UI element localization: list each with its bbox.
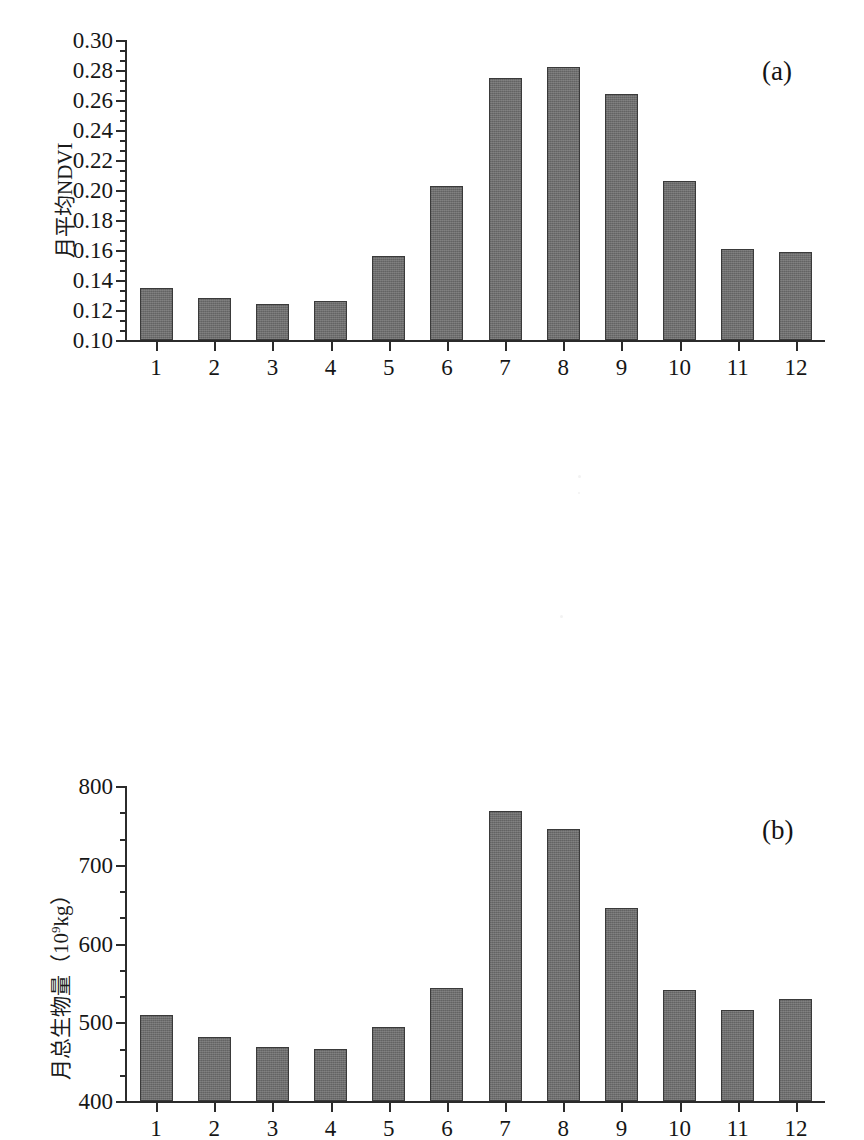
y-axis-minor-tick (120, 260, 127, 262)
x-axis-tick (621, 340, 623, 351)
y-axis-minor-tick (120, 996, 127, 998)
x-axis-tick-label: 2 (209, 1117, 221, 1140)
bar (721, 249, 754, 341)
x-axis-tick (680, 1101, 682, 1112)
y-axis-minor-tick (120, 300, 127, 302)
y-axis-minor-tick (120, 270, 127, 272)
bar (663, 990, 696, 1101)
bar (430, 988, 463, 1101)
y-axis-minor-tick (120, 290, 127, 292)
y-axis-minor-tick (120, 1075, 127, 1077)
y-axis-tick (116, 220, 127, 222)
x-axis-tick (796, 1101, 798, 1112)
y-axis-minor-tick (120, 110, 127, 112)
x-axis-tick (331, 340, 333, 351)
y-axis-minor-tick (120, 90, 127, 92)
y-axis-tick (116, 100, 127, 102)
bar (140, 288, 173, 341)
scan-artifact-speck (578, 475, 581, 478)
bar (314, 301, 347, 340)
x-axis-tick-label: 4 (325, 356, 337, 379)
x-axis-tick (214, 340, 216, 351)
y-axis-tick (116, 1022, 127, 1024)
scan-artifact-speck (578, 492, 580, 494)
y-axis-tick-label: 400 (79, 1090, 114, 1113)
plot-area-b: 800700600500400123456789101112 (125, 786, 825, 1103)
bar (198, 1037, 231, 1101)
bar (547, 67, 580, 340)
x-axis-tick (447, 340, 449, 351)
y-axis-tick (116, 160, 127, 162)
chart-panel-a: 月平均NDVI (a) 0.300.280.260.240.220.200.18… (0, 0, 864, 390)
bar (198, 298, 231, 340)
y-axis-tick (116, 190, 127, 192)
y-axis-minor-tick (120, 150, 127, 152)
y-axis-minor-tick (120, 839, 127, 841)
y-axis-tick-label: 0.24 (73, 119, 113, 142)
y-axis-minor-tick (120, 320, 127, 322)
y-axis-minor-tick (120, 120, 127, 122)
y-axis-tick (116, 280, 127, 282)
bar (256, 304, 289, 340)
x-axis-tick (563, 1101, 565, 1112)
y-axis-minor-tick (120, 50, 127, 52)
x-axis-tick (214, 1101, 216, 1112)
x-axis-tick-label: 1 (150, 1117, 162, 1140)
y-axis-tick (116, 310, 127, 312)
y-axis-minor-tick (120, 891, 127, 893)
y-axis-tick-label: 0.26 (73, 89, 113, 112)
x-axis-tick (680, 340, 682, 351)
x-axis-tick-label: 7 (499, 356, 511, 379)
y-axis-minor-tick (120, 210, 127, 212)
x-axis-tick-label: 8 (558, 356, 570, 379)
y-axis-tick-label: 0.12 (73, 299, 113, 322)
bar (140, 1015, 173, 1101)
y-axis-minor-tick (120, 200, 127, 202)
x-axis-tick-label: 3 (267, 356, 279, 379)
bar (430, 186, 463, 341)
x-axis-tick-label: 4 (325, 1117, 337, 1140)
x-axis-tick (156, 1101, 158, 1112)
bar (489, 811, 522, 1101)
bar (547, 829, 580, 1101)
y-axis-minor-tick (120, 60, 127, 62)
x-axis-tick-label: 11 (727, 356, 749, 379)
y-axis-tick (116, 786, 127, 788)
x-axis-tick-label: 12 (784, 356, 807, 379)
y-axis-tick (116, 40, 127, 42)
x-axis-tick-label: 10 (668, 356, 691, 379)
x-axis-tick (738, 1101, 740, 1112)
y-axis-tick (116, 865, 127, 867)
x-axis-tick-label: 5 (383, 1117, 395, 1140)
y-axis-tick-label: 600 (79, 932, 114, 955)
y-axis-minor-tick (120, 180, 127, 182)
x-axis-tick-label: 7 (499, 1117, 511, 1140)
y-axis-tick-label: 0.30 (73, 29, 113, 52)
x-axis-tick (447, 1101, 449, 1112)
y-axis-label-b: 月总生物量（109kg） (44, 884, 74, 1080)
y-axis-minor-tick (120, 970, 127, 972)
y-axis-minor-tick (120, 812, 127, 814)
x-axis-tick-label: 8 (558, 1117, 570, 1140)
bar (721, 1010, 754, 1101)
y-axis-tick (116, 340, 127, 342)
y-axis-label-b-exponent: 9 (48, 926, 63, 933)
bar (256, 1047, 289, 1101)
x-axis-tick (389, 1101, 391, 1112)
x-axis-tick-label: 3 (267, 1117, 279, 1140)
x-axis-tick (272, 1101, 274, 1112)
y-axis-tick-label: 0.14 (73, 269, 113, 292)
y-axis-label-b-pre: 月总生物量（10 (49, 933, 73, 1080)
y-axis-label-b-post: kg） (49, 884, 73, 926)
x-axis-tick-label: 6 (441, 356, 453, 379)
x-axis-tick (505, 1101, 507, 1112)
y-axis-tick-label: 800 (79, 775, 114, 798)
x-axis-tick (389, 340, 391, 351)
scan-artifact-speck (560, 615, 563, 618)
bar (489, 78, 522, 341)
y-axis-minor-tick (120, 330, 127, 332)
x-axis-tick-label: 12 (784, 1117, 807, 1140)
y-axis-minor-tick (120, 240, 127, 242)
y-axis-minor-tick (120, 1049, 127, 1051)
